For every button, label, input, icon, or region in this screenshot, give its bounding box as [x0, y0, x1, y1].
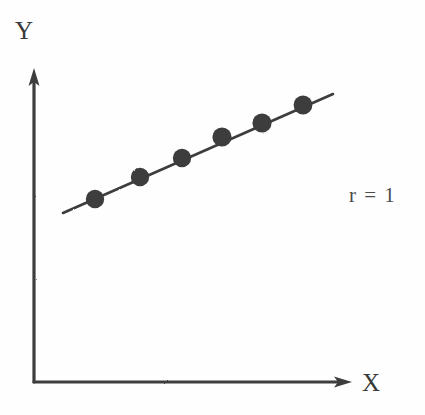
y-axis-label: Y: [15, 18, 34, 43]
data-point: [252, 113, 271, 132]
data-point: [173, 149, 191, 167]
data-point: [131, 168, 149, 186]
trend-line: [63, 94, 333, 213]
correlation-figure: Y X r = 1: [0, 0, 425, 415]
data-point: [212, 127, 231, 146]
correlation-annotation: r = 1: [349, 183, 396, 208]
x-axis-label: X: [362, 370, 381, 395]
data-point: [86, 190, 104, 208]
data-point: [294, 96, 313, 115]
